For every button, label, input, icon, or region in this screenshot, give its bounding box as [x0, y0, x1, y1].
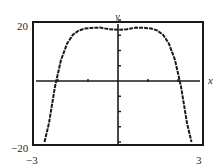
chart: y x 20 −20 −3 3 [0, 0, 224, 168]
chart-svg: y x 20 −20 −3 3 [0, 0, 224, 168]
y-max-label: 20 [17, 20, 29, 32]
x-min-label: −3 [26, 154, 38, 166]
x-max-label: 3 [196, 154, 202, 166]
y-min-label: −20 [11, 142, 29, 154]
y-axis-label: y [114, 10, 120, 22]
x-axis-label: x [207, 74, 213, 86]
